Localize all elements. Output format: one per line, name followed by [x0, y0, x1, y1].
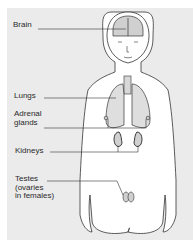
label-adrenal: Adrenal glands — [14, 110, 42, 127]
label-lungs: Lungs — [14, 92, 36, 101]
testes-organ — [123, 192, 134, 202]
label-brain: Brain — [13, 21, 32, 30]
label-kidneys: Kidneys — [15, 147, 43, 156]
label-testes: Testes (ovaries in females) — [15, 175, 54, 201]
trachea — [124, 76, 131, 94]
brain-organ — [113, 16, 143, 36]
